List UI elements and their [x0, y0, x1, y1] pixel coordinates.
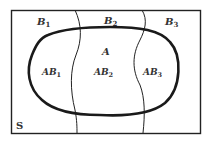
intersection-label-ab2: AB2: [93, 67, 113, 79]
sample-space-label: S: [16, 120, 23, 131]
partition-label-b1: B1: [36, 16, 50, 29]
partition-label-b3: B3: [164, 16, 178, 29]
intersection-label-ab3: AB3: [142, 67, 163, 79]
event-label-a: A: [101, 46, 110, 57]
partition-venn-diagram: B1 B2 B3 A AB1 AB2 AB3 S: [0, 0, 209, 147]
intersection-label-ab1: AB1: [41, 67, 61, 79]
